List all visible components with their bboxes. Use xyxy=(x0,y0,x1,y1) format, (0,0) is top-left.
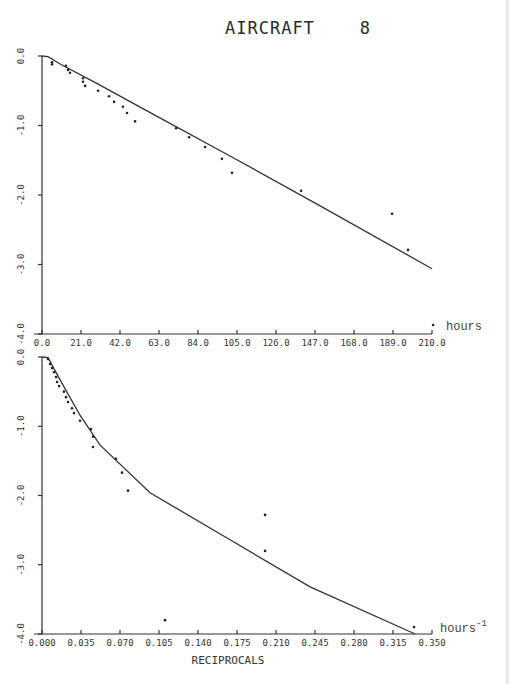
x-tick-label: 21.0 xyxy=(70,338,92,348)
x-tick-label: 0.315 xyxy=(379,638,406,648)
x-tick-label: 105.0 xyxy=(223,338,250,348)
y-tick-label: -4.0 xyxy=(16,323,26,345)
top-fitted-curve xyxy=(42,56,432,269)
bottom-x-ticks: 0.0000.0350.0700.1050.1400.1750.2100.245… xyxy=(28,630,445,648)
data-point xyxy=(49,363,52,366)
data-point xyxy=(79,419,82,422)
data-point xyxy=(65,396,68,399)
y-tick-label: -3.0 xyxy=(16,254,26,276)
data-point xyxy=(82,80,85,83)
data-point xyxy=(264,550,267,553)
data-point xyxy=(71,407,74,410)
data-point xyxy=(58,385,61,388)
x-tick-label: 147.0 xyxy=(301,338,328,348)
x-tick-label: 0.000 xyxy=(28,638,55,648)
x-tick-label: 210.0 xyxy=(418,338,445,348)
data-point xyxy=(432,324,435,327)
data-point xyxy=(92,446,95,449)
x-tick-label: 63.0 xyxy=(148,338,170,348)
bottom-fitted-curve xyxy=(42,357,415,634)
y-tick-label: -2.0 xyxy=(16,485,26,507)
y-tick-label: 0.0 xyxy=(16,48,26,64)
figure: AIRCRAFT 8 0.0-1.0-2.0-3.0-4.0 0.021.042… xyxy=(0,0,509,684)
top-y-ticks: 0.0-1.0-2.0-3.0-4.0 xyxy=(16,48,42,345)
data-point xyxy=(92,435,95,438)
y-tick-label: -3.0 xyxy=(16,554,26,576)
x-tick-label: 0.035 xyxy=(67,638,94,648)
data-point xyxy=(84,85,87,88)
bottom-x-axis-title: RECIPROCALS xyxy=(192,654,265,667)
data-point xyxy=(300,190,303,193)
data-point xyxy=(65,64,68,67)
x-tick-label: 0.070 xyxy=(106,638,133,648)
x-tick-label: 0.280 xyxy=(340,638,367,648)
top-x-unit-label: hours xyxy=(446,320,482,334)
x-tick-label: 0.175 xyxy=(223,638,250,648)
data-point xyxy=(97,89,100,92)
data-point xyxy=(164,619,167,622)
data-point xyxy=(53,371,56,374)
data-point xyxy=(122,105,125,108)
chart-title: AIRCRAFT 8 xyxy=(225,18,371,38)
data-point xyxy=(69,71,72,74)
data-point xyxy=(82,77,85,80)
x-tick-label: 0.245 xyxy=(301,638,328,648)
x-tick-label: 42.0 xyxy=(109,338,131,348)
y-tick-label: -2.0 xyxy=(16,184,26,206)
y-tick-label: -1.0 xyxy=(16,115,26,137)
top-x-ticks: 0.021.042.063.084.0105.0126.0147.0168.01… xyxy=(34,330,446,348)
data-point xyxy=(121,471,124,474)
data-point xyxy=(56,381,59,384)
x-tick-label: 0.105 xyxy=(145,638,172,648)
data-point xyxy=(126,112,129,115)
data-point xyxy=(51,367,54,370)
data-point xyxy=(67,401,70,404)
y-tick-label: -4.0 xyxy=(16,623,26,645)
top-data-points xyxy=(51,61,435,326)
x-tick-label: 0.140 xyxy=(184,638,211,648)
data-point xyxy=(204,146,207,149)
data-point xyxy=(413,626,416,629)
x-tick-label: 168.0 xyxy=(340,338,367,348)
data-point xyxy=(407,249,410,252)
x-tick-label: 126.0 xyxy=(262,338,289,348)
data-point xyxy=(67,69,70,72)
bottom-data-points xyxy=(47,358,416,629)
data-point xyxy=(108,95,111,98)
data-point xyxy=(63,390,66,393)
data-point xyxy=(127,489,130,492)
bottom-plot: 0.0-1.0-2.0-3.0-4.0 0.0000.0350.0700.105… xyxy=(16,349,487,667)
x-tick-label: 0.0 xyxy=(34,338,50,348)
data-point xyxy=(175,127,178,130)
y-tick-label: -1.0 xyxy=(16,415,26,437)
data-point xyxy=(188,136,191,139)
data-point xyxy=(55,376,58,379)
data-point xyxy=(264,514,267,517)
data-point xyxy=(115,457,118,460)
data-point xyxy=(134,120,137,123)
y-tick-label: 0.0 xyxy=(16,349,26,365)
data-point xyxy=(73,412,76,415)
x-tick-label: 0.350 xyxy=(418,638,445,648)
page-edge-shadow xyxy=(505,0,509,684)
x-tick-label: 189.0 xyxy=(379,338,406,348)
top-plot: 0.0-1.0-2.0-3.0-4.0 0.021.042.063.084.01… xyxy=(16,48,482,348)
data-point xyxy=(51,63,54,66)
data-point xyxy=(221,158,224,161)
data-point xyxy=(90,428,93,431)
bottom-x-unit-label: hours-1 xyxy=(440,619,487,636)
bottom-y-ticks: 0.0-1.0-2.0-3.0-4.0 xyxy=(16,349,42,645)
data-point xyxy=(47,358,50,361)
data-point xyxy=(113,101,116,104)
x-tick-label: 84.0 xyxy=(187,338,209,348)
x-tick-label: 0.210 xyxy=(262,638,289,648)
data-point xyxy=(231,171,234,174)
data-point xyxy=(391,212,394,215)
